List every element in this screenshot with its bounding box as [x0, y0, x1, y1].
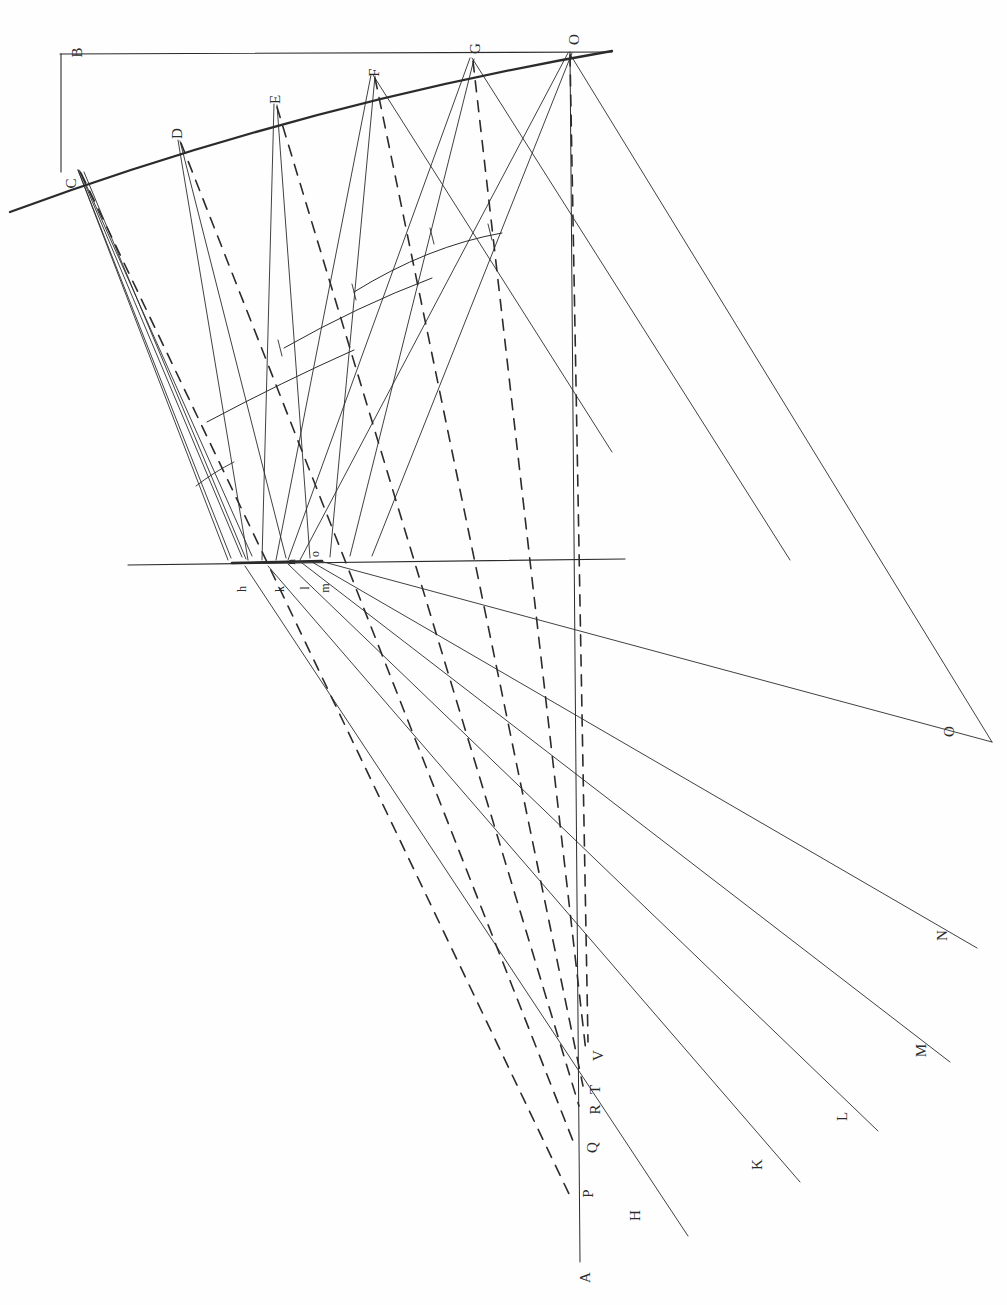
label-focus-n: n: [285, 559, 297, 565]
label-ray-H: H: [628, 1210, 643, 1221]
dashed-D: [181, 143, 575, 1146]
ray-to-M: [302, 563, 950, 1062]
label-point-C: C: [64, 178, 79, 188]
optical-ray-diagram: B C D E F G O h k l m n o A P Q R T V H …: [0, 0, 1007, 1305]
label-ray-L: L: [835, 1112, 850, 1121]
ray-to-K: [268, 566, 800, 1182]
label-focus-k: k: [274, 586, 286, 592]
dashed-O: [570, 55, 588, 1042]
dashed-C: [81, 173, 570, 1196]
label-ray-O-end: O: [942, 726, 957, 737]
dashed-G: [473, 61, 586, 1052]
arc-ticks: [278, 224, 492, 356]
label-point-A: A: [578, 1272, 593, 1283]
dashed-rays: [81, 55, 588, 1196]
dashed-F: [375, 78, 583, 1086]
diagram-canvas: [0, 0, 1007, 1305]
label-point-V: V: [591, 1050, 606, 1061]
transmitted-rays: [245, 561, 992, 1236]
label-point-G: G: [468, 43, 483, 54]
ray-bundle-c: [78, 170, 252, 558]
label-ray-N: N: [935, 930, 950, 941]
label-point-E: E: [268, 95, 283, 104]
label-focus-l: l: [299, 586, 311, 589]
dashed-E: [277, 107, 579, 1106]
datum-line: [60, 52, 612, 54]
label-focus-o: o: [309, 551, 321, 557]
wavefront-arc-1: [207, 350, 354, 422]
ray-to-L: [288, 564, 878, 1131]
label-ray-M: M: [914, 1044, 929, 1057]
label-focus-h: h: [236, 586, 248, 592]
label-point-R: R: [588, 1104, 603, 1114]
label-point-F: F: [367, 68, 382, 76]
mirror-arc: [10, 51, 612, 212]
ray-bundle-d: [178, 140, 286, 560]
label-point-T: T: [588, 1085, 603, 1094]
label-focus-m: m: [319, 583, 331, 592]
ray-to-N: [312, 562, 977, 948]
ray-bundle-o: [300, 53, 572, 560]
ray-to-O: [320, 561, 992, 742]
label-point-O-top: O: [567, 34, 582, 45]
label-ray-K: K: [750, 1159, 765, 1170]
surface-diagonals: [373, 54, 992, 742]
label-point-D: D: [170, 128, 185, 139]
optical-axis: [128, 559, 625, 565]
wavefront-arc-2: [284, 278, 432, 348]
ray-bundle-f: [276, 75, 375, 560]
principal-axis-oa: [570, 52, 580, 1262]
label-point-P: P: [581, 1189, 596, 1197]
ray-to-H: [245, 566, 688, 1236]
label-point-Q: Q: [585, 1142, 600, 1153]
label-point-B: B: [70, 47, 85, 57]
